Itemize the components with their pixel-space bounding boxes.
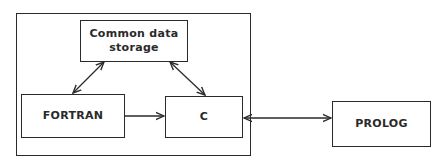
edge-fortran-storage (73, 62, 104, 93)
edges-layer (0, 0, 442, 168)
edge-c-storage (170, 62, 205, 95)
